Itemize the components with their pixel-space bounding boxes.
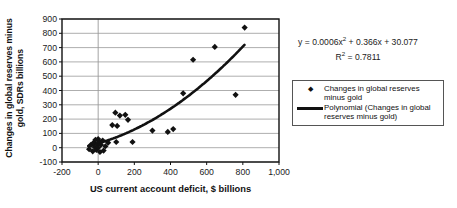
- legend-marker-cell: [296, 103, 324, 112]
- x-tick-label: 200: [127, 167, 142, 177]
- legend-entry-text: Changes in global reserves minus gold: [324, 84, 441, 103]
- x-tick-label: -200: [53, 167, 71, 177]
- y-tick-label: 100: [43, 128, 58, 138]
- diamond-marker-icon: ◆: [308, 84, 313, 93]
- scatter-point: [242, 24, 248, 30]
- legend-entry-trendline: Polynomial (Changes in global reserves m…: [296, 103, 441, 122]
- y-tick-label: 500: [43, 71, 58, 81]
- y-axis-title-line2: gold, SDRs billions: [15, 18, 26, 157]
- legend-text-line: Changes in global reserves: [324, 84, 441, 93]
- y-axis-title: Changes in global reserves minus gold, S…: [4, 18, 26, 157]
- scatter-point: [125, 117, 131, 123]
- y-tick-label: 800: [43, 28, 58, 38]
- y-tick-label: 300: [43, 100, 58, 110]
- x-tick-label: 800: [236, 167, 251, 177]
- trendline-equation: y = 0.0006x2 + 0.366x + 30.077 R2 = 0.78…: [291, 35, 425, 65]
- scatter-point: [113, 139, 119, 145]
- x-tick-label: 600: [199, 167, 214, 177]
- y-tick-label: 900: [43, 14, 58, 24]
- legend-text-line: minus gold: [324, 93, 441, 102]
- scatter-point: [149, 127, 155, 133]
- trendline-marker-icon: [297, 107, 323, 110]
- scatter-point: [212, 44, 218, 50]
- equation-line: y = 0.0006x2 + 0.366x + 30.077: [291, 35, 425, 50]
- scatter-point: [170, 126, 176, 132]
- y-tick-label: 600: [43, 57, 58, 67]
- legend-text-line: reserves minus gold): [324, 112, 441, 121]
- equation-text: + 0.366x + 30.077: [346, 37, 418, 47]
- legend-marker-cell: ◆: [296, 84, 324, 93]
- legend-entry-text: Polynomial (Changes in global reserves m…: [324, 103, 441, 122]
- scatter-point: [233, 92, 239, 98]
- scatter-point: [109, 122, 115, 128]
- y-axis-title-line1: Changes in global reserves minus: [4, 18, 15, 157]
- r-squared-line: R2 = 0.7811: [291, 50, 425, 65]
- legend-entry-scatter: ◆ Changes in global reserves minus gold: [296, 84, 441, 103]
- legend: ◆ Changes in global reserves minus gold …: [292, 80, 444, 126]
- scatter-point: [180, 90, 186, 96]
- scatter-point: [122, 112, 128, 118]
- equation-text: y = 0.0006x: [298, 37, 343, 47]
- y-tick-label: 700: [43, 43, 58, 53]
- y-tick-label: 200: [43, 114, 58, 124]
- x-tick-label: 400: [163, 167, 178, 177]
- x-tick-label: 1,000: [268, 167, 290, 177]
- scatter-point: [129, 139, 135, 145]
- y-tick-label: 400: [43, 86, 58, 96]
- r-squared-text: = 0.7811: [345, 52, 380, 62]
- scatter-chart: -20002004006008001,000900800700600500400…: [0, 0, 457, 208]
- x-axis-title: US current account deficit, $ billions: [62, 184, 279, 194]
- y-tick-label: 0: [52, 143, 57, 153]
- x-tick-label: 0: [96, 167, 101, 177]
- scatter-point: [114, 123, 120, 129]
- y-tick-label: -100: [40, 157, 58, 167]
- scatter-point: [165, 129, 171, 135]
- legend-text-line: Polynomial (Changes in global: [324, 103, 441, 112]
